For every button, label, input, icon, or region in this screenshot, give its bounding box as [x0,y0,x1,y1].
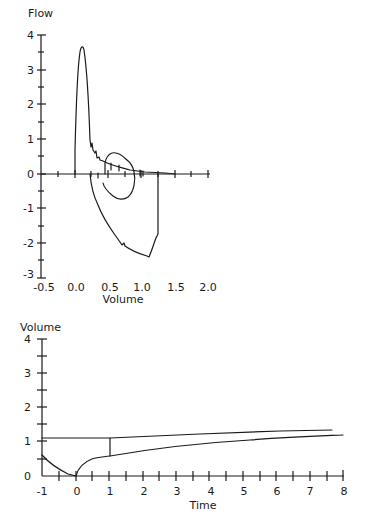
svg-text:2: 2 [141,485,148,498]
svg-text:-0.5: -0.5 [33,281,54,294]
svg-text:4: 4 [208,485,215,498]
svg-text:4: 4 [27,29,34,42]
svg-text:1: 1 [27,133,34,146]
svg-text:-3: -3 [23,268,34,281]
inspiratory-curve [90,174,158,257]
svg-text:2: 2 [27,98,34,111]
x-tick-labels: -1 0 1 2 3 4 5 6 7 8 [37,485,348,498]
expiratory-curve [75,47,175,174]
svg-text:0: 0 [24,470,31,483]
y-tick-labels: 4 3 2 1 0 -1 -2 -3 [23,29,34,281]
y-tick-labels: 4 3 2 1 0 [24,333,31,483]
volume-time-curve [42,435,343,476]
svg-text:7: 7 [307,485,314,498]
svg-text:1: 1 [107,485,114,498]
x-axis-label: Time [189,499,217,512]
svg-text:5: 5 [241,485,248,498]
svg-text:4: 4 [24,333,31,346]
flow-volume-chart: Flow 4 3 2 1 0 -1 -2 - [23,7,217,306]
svg-text:2.0: 2.0 [199,281,217,294]
svg-text:0: 0 [27,168,34,181]
svg-text:3: 3 [27,64,34,77]
svg-text:-1: -1 [23,202,34,215]
svg-text:8: 8 [341,485,348,498]
figure: Flow 4 3 2 1 0 -1 -2 - [0,0,365,524]
svg-text:-2: -2 [23,237,34,250]
svg-text:2: 2 [24,401,31,414]
x-axis-label: Volume [103,293,144,306]
svg-text:3: 3 [24,367,31,380]
svg-text:0.0: 0.0 [67,281,85,294]
svg-text:1: 1 [24,435,31,448]
volume-reference-line [42,430,332,438]
volume-time-chart: Volume 4 3 2 1 0 [20,321,348,512]
svg-text:6: 6 [274,485,281,498]
svg-text:3: 3 [174,485,181,498]
svg-text:1.5: 1.5 [167,281,185,294]
y-axis-label: Flow [28,7,53,20]
svg-text:0: 0 [74,485,81,498]
svg-text:-1: -1 [37,485,48,498]
